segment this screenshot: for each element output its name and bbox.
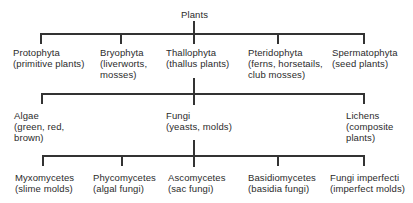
node-label: Algae <box>14 110 64 121</box>
node-description: (yeasts, molds) <box>166 121 232 132</box>
level3-drop-basidiomycetes <box>277 155 279 166</box>
node-description: (thallus plants) <box>166 58 229 69</box>
node-description: club mosses) <box>248 69 323 80</box>
node-fungi: Fungi (yeasts, molds) <box>166 110 232 132</box>
node-label: Spermatophyta <box>332 47 398 58</box>
node-label: Protophyta <box>13 47 84 58</box>
node-plants: Plants <box>181 9 208 20</box>
node-label: Fungi <box>166 110 232 121</box>
node-description: (basidia fungi) <box>248 183 316 194</box>
node-basidiomycetes: Basidiomycetes (basidia fungi) <box>248 172 316 194</box>
node-label: Pteridophyta <box>248 47 323 58</box>
node-description: (imperfect molds) <box>330 183 405 194</box>
node-label: Ascomycetes <box>168 172 226 183</box>
node-spermatophyta: Spermatophyta (seed plants) <box>332 47 398 69</box>
node-label: Myxomycetes <box>15 172 74 183</box>
node-description: (green, red, <box>14 121 64 132</box>
node-description: (seed plants) <box>332 58 398 69</box>
node-description: (slime molds) <box>15 183 74 194</box>
level3-drop-myxomycetes <box>42 155 44 166</box>
node-bryophyta: Bryophyta (liverworts, mosses) <box>100 47 147 80</box>
node-label: Basidiomycetes <box>248 172 316 183</box>
node-algae: Algae (green, red, brown) <box>14 110 64 143</box>
level3-bar <box>42 155 364 157</box>
node-label: Thallophyta <box>166 47 229 58</box>
level2-drop-algae <box>41 93 43 104</box>
node-description: (composite <box>346 121 393 132</box>
node-protophyta: Protophyta (primitive plants) <box>13 47 84 69</box>
node-label: Phycomycetes <box>93 172 156 183</box>
node-description: (sac fungi) <box>168 183 226 194</box>
node-pteridophyta: Pteridophyta (ferns, horsetails, club mo… <box>248 47 323 80</box>
fungi-stem <box>193 140 195 167</box>
node-label: Plants <box>181 9 208 20</box>
level3-drop-phycomycetes <box>121 155 123 166</box>
node-phycomycetes: Phycomycetes (algal fungi) <box>93 172 156 194</box>
node-myxomycetes: Myxomycetes (slime molds) <box>15 172 74 194</box>
node-description: brown) <box>14 132 64 143</box>
node-thallophyta: Thallophyta (thallus plants) <box>166 47 229 69</box>
node-description: (primitive plants) <box>13 58 84 69</box>
thallophyta-stem <box>193 78 195 105</box>
node-ascomycetes: Ascomycetes (sac fungi) <box>168 172 226 194</box>
node-description: (algal fungi) <box>93 183 156 194</box>
level1-drop-spermatophyta <box>363 33 365 44</box>
node-lichens: Lichens (composite plants) <box>346 110 393 143</box>
level1-drop-protophyta <box>40 33 42 44</box>
node-description: plants) <box>346 132 393 143</box>
node-description: (liverworts, <box>100 58 147 69</box>
node-label: Lichens <box>346 110 393 121</box>
node-description: mosses) <box>100 69 147 80</box>
level1-drop-bryophyta <box>120 33 122 44</box>
node-label: Bryophyta <box>100 47 147 58</box>
level2-bar <box>41 93 364 95</box>
level3-drop-fungi-imperfecti <box>363 155 365 166</box>
level1-bar <box>40 33 364 35</box>
level2-drop-lichens <box>363 93 365 104</box>
node-label: Fungi imperfecti <box>330 172 405 183</box>
node-description: (ferns, horsetails, <box>248 58 323 69</box>
level1-drop-pteridophyta <box>277 33 279 44</box>
node-fungi-imperfecti: Fungi imperfecti (imperfect molds) <box>330 172 405 194</box>
